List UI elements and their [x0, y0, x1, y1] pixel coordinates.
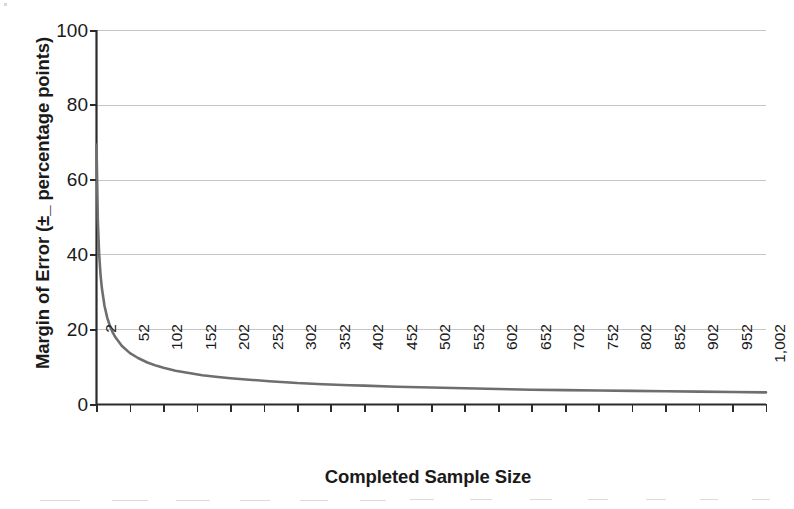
x-tick-label: 152	[203, 324, 219, 414]
x-tick-label: 102	[169, 324, 185, 414]
x-tick-label: 52	[136, 324, 152, 414]
x-tick-label: 802	[638, 324, 654, 414]
x-tick-label: 702	[571, 324, 587, 414]
x-tick-label: 852	[672, 324, 688, 414]
x-tick-label: 902	[705, 324, 721, 414]
x-tick-label: 352	[337, 324, 353, 414]
x-tick-label: 402	[370, 324, 386, 414]
chart-figure: 020406080100 252102152202252302352402452…	[0, 0, 794, 509]
x-tick-label: 1,002	[772, 324, 788, 414]
x-tick-label: 302	[303, 324, 319, 414]
x-tick-label: 952	[739, 324, 755, 414]
y-axis-title: Margin of Error (±_ percentage points)	[32, 8, 54, 398]
x-tick-label: 452	[404, 324, 420, 414]
x-tick-labels: 2521021522022523023524024525025526026527…	[0, 0, 794, 509]
x-tick-label: 502	[437, 324, 453, 414]
x-tick-label: 602	[504, 324, 520, 414]
x-tick-label: 752	[605, 324, 621, 414]
x-axis-title: Completed Sample Size	[90, 466, 766, 488]
x-tick-label: 652	[538, 324, 554, 414]
x-tick-label: 2	[103, 324, 119, 414]
x-tick-label: 202	[236, 324, 252, 414]
x-tick-label: 252	[270, 324, 286, 414]
x-tick-label: 552	[471, 324, 487, 414]
